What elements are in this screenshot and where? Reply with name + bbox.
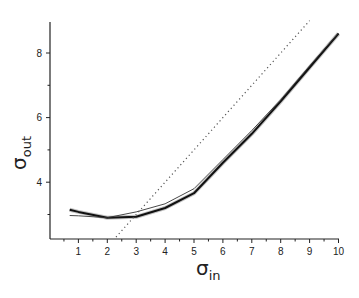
x-tick-label: 9 [307,246,313,257]
x-tick-label: 8 [278,246,284,257]
y-tick-label: 8 [36,48,42,59]
series-thick-shadow [70,34,339,218]
x-tick-label: 10 [333,246,345,257]
x-tick-label: 2 [105,246,111,257]
series-thick-line [70,34,339,218]
chart: 12345678910 468 σin σout [0,0,359,298]
x-tick-label: 3 [133,246,139,257]
y-tick-label: 4 [36,177,42,188]
series-thin-line [70,33,339,218]
identity-dotted-line [116,21,310,237]
y-axis-title: σout [7,136,34,170]
x-tick-label: 1 [76,246,82,257]
plot-lines [70,21,339,237]
x-axis-title: σin [196,256,221,283]
y-tick-label: 6 [36,112,42,123]
axes [50,22,339,239]
y-ticks: 468 [36,48,50,215]
x-ticks: 12345678910 [64,239,345,257]
x-tick-label: 6 [220,246,226,257]
x-tick-label: 4 [162,246,168,257]
x-tick-label: 7 [249,246,255,257]
